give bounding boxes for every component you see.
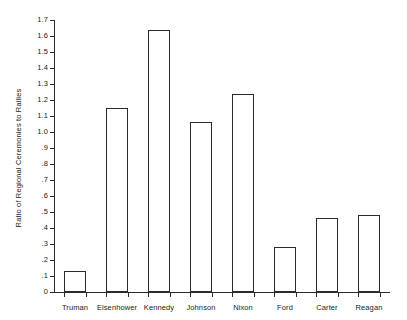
y-tick-mark [50,260,54,261]
x-tick-mark [190,292,191,297]
x-tick-mark [296,292,297,297]
x-axis-label-nixon: Nixon [222,303,264,313]
y-tick-label: 1.5 [37,47,48,56]
x-tick-mark [380,292,381,297]
bar-ford [274,247,297,292]
x-tick-mark [358,292,359,297]
y-tick-mark [50,148,54,149]
y-tick-label: 0 [44,287,48,296]
y-tick-label: .2 [42,255,48,264]
x-tick-mark [128,292,129,297]
y-tick-mark [50,228,54,229]
y-tick-label: 1.7 [37,15,48,24]
bar-chart: Ratio of Regional Ceremonies to Rallies … [0,0,407,320]
x-tick-mark [170,292,171,297]
x-tick-mark [254,292,255,297]
y-tick-label: .5 [42,207,48,216]
y-tick-mark [50,276,54,277]
y-tick-label: 1.6 [37,31,48,40]
x-tick-mark [212,292,213,297]
y-tick-mark [50,20,54,21]
y-tick-label: 1.0 [37,127,48,136]
x-axis-label-kennedy: Kennedy [138,303,180,313]
plot-area: 0.1.2.3.4.5.6.7.8.91.01.11.21.31.41.51.6… [54,20,390,292]
y-tick-mark [50,196,54,197]
x-axis-label-reagan: Reagan [348,303,390,313]
x-tick-mark [148,292,149,297]
x-tick-mark [64,292,65,297]
y-tick-label: 1.1 [37,111,48,120]
y-tick-label: 1.4 [37,63,48,72]
x-axis-line [54,292,390,293]
x-axis-label-truman: Truman [54,303,96,313]
y-tick-mark [50,244,54,245]
x-axis-label-eisenhower: Eisenhower [96,303,138,313]
y-tick-label: .8 [42,159,48,168]
y-tick-mark [50,116,54,117]
x-tick-mark [316,292,317,297]
y-tick-mark [50,292,54,293]
y-tick-mark [50,36,54,37]
y-tick-label: .6 [42,191,48,200]
bar-eisenhower [106,108,129,292]
y-tick-label: .1 [42,271,48,280]
x-tick-mark [106,292,107,297]
bar-reagan [358,215,381,292]
bar-johnson [190,122,213,292]
y-tick-label: 1.3 [37,79,48,88]
y-tick-label: 1.2 [37,95,48,104]
y-axis-line [54,20,55,292]
x-tick-mark [274,292,275,297]
y-tick-mark [50,68,54,69]
y-tick-mark [50,84,54,85]
bar-carter [316,218,339,292]
bar-truman [64,271,87,292]
y-tick-mark [50,132,54,133]
x-axis-label-johnson: Johnson [180,303,222,313]
x-axis-label-carter: Carter [306,303,348,313]
y-tick-mark [50,52,54,53]
y-tick-label: .3 [42,239,48,248]
bar-kennedy [148,30,171,292]
y-tick-mark [50,212,54,213]
y-tick-label: .4 [42,223,48,232]
x-tick-mark [232,292,233,297]
y-tick-mark [50,164,54,165]
x-axis-label-ford: Ford [264,303,306,313]
bar-nixon [232,94,255,292]
x-tick-mark [338,292,339,297]
y-tick-label: .9 [42,143,48,152]
y-tick-label: .7 [42,175,48,184]
y-tick-mark [50,180,54,181]
y-axis-title: Ratio of Regional Ceremonies to Rallies [13,58,25,258]
x-tick-mark [86,292,87,297]
y-tick-mark [50,100,54,101]
